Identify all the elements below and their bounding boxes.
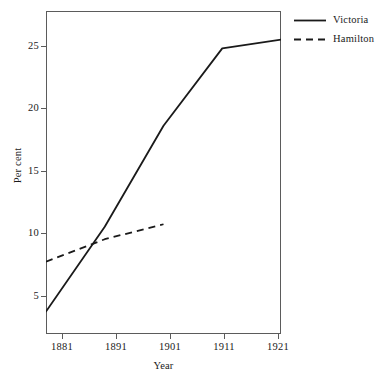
- y-axis-tick-label-10: 10: [28, 228, 39, 239]
- x-axis-tick-1901: [170, 334, 171, 339]
- x-axis-tick-label-1901: 1901: [150, 342, 190, 353]
- series-line-victoria: [46, 40, 281, 312]
- y-axis-tick-label-20: 20: [28, 103, 39, 114]
- y-axis-tick-label-25: 25: [28, 41, 39, 52]
- y-axis-title: Per cent: [12, 136, 23, 196]
- x-axis-tick-label-1911: 1911: [204, 342, 244, 353]
- legend-swatch-dashed-icon: [294, 38, 326, 41]
- y-axis-tick-label-5: 5: [34, 291, 39, 302]
- x-axis-tick-label-1891: 1891: [96, 342, 136, 353]
- x-axis-tick-1911: [224, 334, 225, 339]
- x-axis-tick-label-1881: 1881: [42, 342, 82, 353]
- x-axis-tick-1881: [62, 334, 63, 339]
- x-axis-tick-1921: [278, 334, 279, 339]
- x-axis-tick-1891: [116, 334, 117, 339]
- x-axis-title: Year: [46, 360, 281, 371]
- legend-label-hamilton: Hamilton: [333, 31, 374, 47]
- series-lines: [46, 11, 281, 334]
- legend-label-victoria: Victoria: [333, 12, 368, 28]
- legend-item-hamilton[interactable]: Hamilton: [294, 31, 380, 50]
- x-axis-tick-label-1921: 1921: [258, 342, 298, 353]
- legend-swatch-solid-icon: [294, 19, 326, 22]
- series-line-hamilton: [46, 224, 164, 261]
- legend-item-victoria[interactable]: Victoria: [294, 12, 380, 31]
- chart-legend: Victoria Hamilton: [294, 12, 380, 50]
- y-axis-tick-label-15: 15: [28, 166, 39, 177]
- line-chart-figure: 25 20 15 10 5 1881 1891 1901 1911 1921 P…: [0, 0, 380, 386]
